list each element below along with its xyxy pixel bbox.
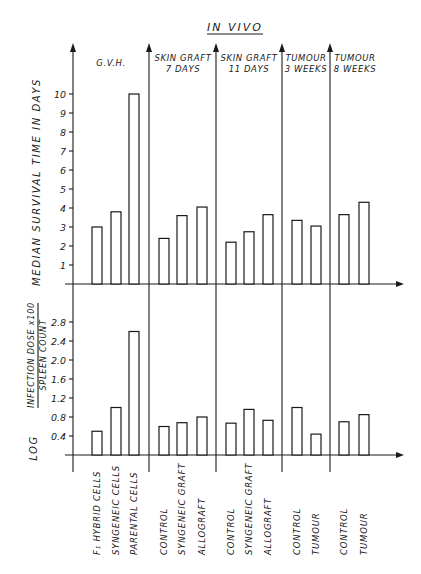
bar	[129, 332, 139, 456]
bar	[197, 207, 207, 284]
bar	[263, 215, 273, 284]
x-axis-label: TUMOUR	[311, 513, 321, 555]
chart-title: IN VIVO	[207, 21, 263, 34]
x-axis-labels: F₁ HYBRID CELLSSYNGENEIC CELLSPARENTAL C…	[92, 463, 369, 556]
bar	[111, 408, 121, 456]
bar	[292, 220, 302, 284]
group-header: SKIN GRAFT	[221, 53, 278, 63]
bar	[263, 420, 273, 455]
tick-label: 0.8	[51, 412, 66, 423]
lower-x-axis-arrow-icon	[396, 452, 404, 458]
group-header-sub: 11 DAYS	[229, 64, 270, 74]
bar	[177, 216, 187, 284]
group-headers: G.V.H.SKIN GRAFT7 DAYSSKIN GRAFT11 DAYST…	[96, 53, 376, 74]
x-axis-label: CONTROL	[226, 508, 236, 555]
bar	[92, 227, 102, 284]
x-axis-label: ALLOGRAFT	[263, 498, 273, 556]
tick-label: 2.8	[51, 317, 66, 328]
up-arrow-icon	[146, 43, 152, 52]
bar	[359, 202, 369, 284]
x-axis-label: CONTROL	[339, 508, 349, 555]
tick-label: 1.2	[51, 393, 66, 404]
x-axis-label: F₁ HYBRID CELLS	[92, 471, 102, 555]
tick-label: 4	[60, 203, 66, 214]
bar	[359, 415, 369, 455]
tick-label: 2	[60, 241, 66, 252]
up-arrow-icon	[327, 43, 333, 52]
x-axis-label: PARENTAL CELLS	[129, 472, 139, 555]
tick-label: 3	[60, 222, 66, 233]
group-header: TUMOUR	[285, 53, 326, 63]
group-header-sub: 3 WEEKS	[285, 64, 327, 74]
bar	[339, 422, 349, 455]
bar	[226, 242, 236, 284]
up-arrow-icon	[70, 43, 76, 52]
upper-x-axis-arrow-icon	[396, 281, 404, 287]
lower-y-axis-label-log: LOG	[28, 435, 39, 461]
bar	[92, 431, 102, 455]
tick-label: 1	[60, 260, 66, 271]
x-axis-label: SYNGENEIC GRAFT	[244, 463, 254, 555]
lower-y-axis-label: LOG INFECTION DOSE x100 SPLEEN COUNT	[27, 302, 48, 461]
group-header: SKIN GRAFT	[155, 53, 212, 63]
tick-label: 0.4	[51, 431, 66, 442]
bar	[111, 212, 121, 284]
up-arrow-icon	[279, 43, 285, 52]
bar	[292, 408, 302, 456]
tick-label: 6	[60, 165, 66, 176]
bar	[339, 215, 349, 284]
tick-label: 9	[60, 108, 66, 119]
x-axis-label: CONTROL	[292, 508, 302, 555]
group-header: G.V.H.	[96, 58, 126, 68]
bar	[311, 226, 321, 284]
tick-label: 8	[60, 127, 66, 138]
x-axis-label: ALLOGRAFT	[197, 498, 207, 556]
bar	[159, 238, 169, 284]
tick-label: 2.0	[51, 355, 66, 366]
tick-label: 10	[54, 89, 66, 100]
upper-y-axis-label: MEDIAN SURVIVAL TIME IN DAYS	[31, 78, 42, 286]
tick-label: 1.6	[51, 374, 66, 385]
bar	[311, 434, 321, 455]
up-arrow-icon	[213, 43, 219, 52]
x-axis-label: SYNGENEIC CELLS	[111, 465, 121, 555]
group-header: TUMOUR	[334, 53, 375, 63]
bar	[159, 427, 169, 456]
bar	[244, 409, 254, 455]
tick-label: 2.4	[51, 336, 66, 347]
upper-y-axis-ticks: 12345678910	[54, 89, 73, 271]
bar	[129, 94, 139, 284]
bar	[197, 417, 207, 455]
group-header-sub: 7 DAYS	[166, 64, 201, 74]
in-vivo-chart: IN VIVO G.V.H.SKIN GRAFT7 DAYSSKIN GRAFT…	[0, 0, 421, 574]
lower-y-axis-label-numerator: INFECTION DOSE x100	[27, 302, 36, 408]
x-axis-label: SYNGENEIC GRAFT	[177, 463, 187, 555]
lower-y-axis-ticks: 0.40.81.21.62.02.42.8	[51, 317, 73, 442]
lower-bars	[92, 332, 369, 456]
bar	[226, 423, 236, 455]
tick-label: 7	[60, 146, 66, 157]
tick-label: 5	[60, 184, 66, 195]
lower-y-axis-label-denominator: SPLEEN COUNT	[39, 319, 48, 391]
x-axis-label: CONTROL	[159, 508, 169, 555]
upper-bars	[92, 94, 369, 284]
x-axis-label: TUMOUR	[359, 513, 369, 555]
group-header-sub: 8 WEEKS	[334, 64, 376, 74]
bar	[244, 232, 254, 284]
bar	[177, 423, 187, 455]
